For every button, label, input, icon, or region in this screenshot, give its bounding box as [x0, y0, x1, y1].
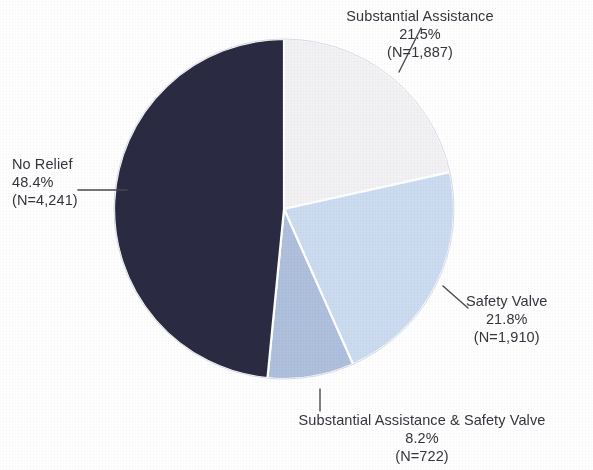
slice-label-percent: 48.4% [12, 174, 78, 192]
leader-line-safety-valve [443, 286, 468, 308]
slice-label-name: Substantial Assistance & Safety Valve [299, 412, 546, 430]
slice-label-substantial-assistance: Substantial Assistance 21.5% (N=1,887) [346, 8, 493, 62]
slice-label-safety-valve: Safety Valve 21.8% (N=1,910) [466, 293, 548, 347]
slice-label-percent: 21.5% [346, 26, 493, 44]
pie-slice-group [114, 39, 454, 379]
slice-label-percent: 8.2% [299, 430, 546, 448]
slice-label-count: (N=1,887) [346, 44, 493, 62]
slice-label-count: (N=1,910) [466, 329, 548, 347]
slice-label-percent: 21.8% [466, 311, 548, 329]
slice-label-substantial-assistance-and-safety-valve: Substantial Assistance & Safety Valve 8.… [299, 412, 546, 466]
slice-label-name: No Relief [12, 156, 78, 174]
slice-label-count: (N=4,241) [12, 192, 78, 210]
slice-label-count: (N=722) [299, 448, 546, 466]
pie-chart-figure: Substantial Assistance 21.5% (N=1,887) N… [0, 0, 593, 470]
pie-slice [114, 39, 284, 378]
slice-label-name: Substantial Assistance [346, 8, 493, 26]
slice-label-no-relief: No Relief 48.4% (N=4,241) [12, 156, 78, 210]
slice-label-name: Safety Valve [466, 293, 548, 311]
pie-chart-graphic [0, 0, 593, 470]
